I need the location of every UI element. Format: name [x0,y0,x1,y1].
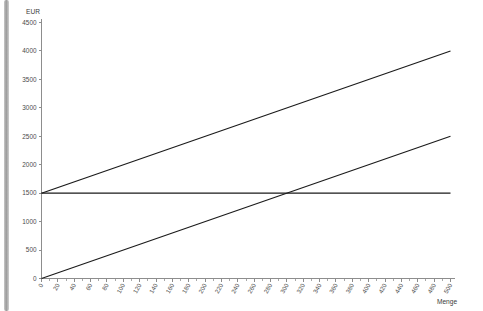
y-tick-label: 1000 [22,218,37,225]
y-tick-label: 500 [26,246,37,253]
x-tick-label: 420 [377,282,389,295]
y-axis-title: EUR [26,8,40,15]
y-tick-label: 0 [33,275,37,282]
y-tick-label: 2000 [22,161,37,168]
x-tick-label: 320 [295,282,307,295]
y-tick-label: 2500 [22,133,37,140]
line-chart: 050010001500200025003000350040004500 020… [0,0,483,311]
y-tick-label: 3500 [22,76,37,83]
x-tick-label: 160 [164,282,176,295]
y-tick-label: 1500 [22,189,37,196]
x-tick-label: 120 [131,282,143,295]
y-tick-label: 3000 [22,104,37,111]
chart-container: 050010001500200025003000350040004500 020… [0,0,483,311]
x-axis-title: Menge [437,298,457,306]
x-tick-label: 280 [262,282,274,295]
series-layer [42,51,451,279]
x-tick-label: 20 [51,282,61,292]
x-tick-label: 40 [68,282,78,292]
x-tick-label: 400 [360,282,372,295]
x-tick-label: 240 [229,282,241,295]
x-tick-label: 500 [442,282,454,295]
series-line-gesamtkosten [42,51,451,193]
series-line-erloes [42,136,451,278]
x-tick-label: 80 [100,282,110,292]
x-tick-label: 60 [84,282,94,292]
x-tick-label: 140 [148,282,160,295]
x-tick-label: 460 [409,282,421,295]
x-tick-label: 0 [37,282,45,289]
x-tick-label: 300 [279,282,291,295]
y-axis: 050010001500200025003000350040004500 [22,19,41,282]
y-tick-label: 4500 [22,19,37,26]
x-tick-label: 180 [180,282,192,295]
x-tick-label: 200 [197,282,209,295]
x-tick-label: 440 [393,282,405,295]
x-tick-label: 480 [426,282,438,295]
y-tick-label: 4000 [22,47,37,54]
x-tick-label: 360 [328,282,340,295]
x-tick-label: 220 [213,282,225,295]
x-tick-label: 100 [115,282,127,295]
x-tick-label: 340 [311,282,323,295]
x-tick-label: 260 [246,282,258,295]
x-axis: 0204060801001201401601802002202402602803… [37,279,455,295]
x-tick-label: 380 [344,282,356,295]
